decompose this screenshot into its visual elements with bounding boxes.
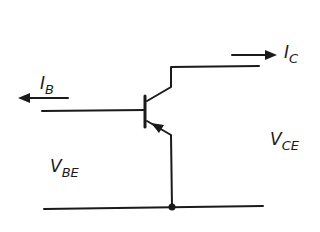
common-line [44,206,263,209]
junction-dot [169,204,176,211]
base-emitter-voltage-label: VBE [50,156,80,180]
collector-lead [147,66,259,101]
circuit-svg: IB IC VBE VCE [0,0,320,232]
base-lead [42,110,145,111]
collector-current-arrow-icon [265,50,277,60]
emitter-lead [147,121,172,207]
emitter-arrow-icon [151,123,164,133]
base-current-arrow-icon [18,93,30,103]
transistor-diagram: IB IC VBE VCE [0,0,320,232]
collector-current-label: IC [284,42,299,66]
base-current-label: IB [40,73,54,97]
collector-emitter-voltage-label: VCE [270,129,300,153]
